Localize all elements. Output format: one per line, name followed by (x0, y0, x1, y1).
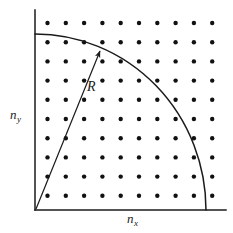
lattice-dot (82, 136, 86, 140)
lattice-dot (45, 59, 49, 63)
lattice-dot (45, 98, 49, 102)
lattice-dot (210, 174, 214, 178)
lattice-dot (173, 117, 177, 121)
lattice-dot (210, 21, 214, 25)
lattice-dot (100, 117, 104, 121)
lattice-dot (82, 194, 86, 198)
lattice-dot (64, 40, 68, 44)
lattice-dot (82, 174, 86, 178)
lattice-dot (137, 136, 141, 140)
lattice-dot (173, 194, 177, 198)
lattice-dot (82, 98, 86, 102)
lattice-dot (155, 98, 159, 102)
lattice-dot (119, 78, 123, 82)
lattice-quarter-circle-figure (0, 0, 233, 233)
lattice-dot (64, 194, 68, 198)
y-axis-label: ny (10, 108, 21, 124)
lattice-dot (119, 194, 123, 198)
lattice-dot (100, 136, 104, 140)
lattice-dot-grid (45, 21, 214, 198)
lattice-dot (119, 136, 123, 140)
lattice-dot (64, 174, 68, 178)
lattice-dot (119, 40, 123, 44)
lattice-dot (100, 40, 104, 44)
lattice-dot (155, 59, 159, 63)
lattice-dot (210, 59, 214, 63)
lattice-dot (137, 40, 141, 44)
lattice-dot (173, 40, 177, 44)
lattice-dot (210, 78, 214, 82)
lattice-dot (155, 78, 159, 82)
axis-group (35, 10, 226, 210)
x-axis-label-base: n (127, 211, 134, 226)
lattice-dot (119, 117, 123, 121)
lattice-dot (45, 40, 49, 44)
lattice-dot (173, 59, 177, 63)
lattice-dot (64, 21, 68, 25)
lattice-dot (82, 117, 86, 121)
lattice-dot (119, 174, 123, 178)
lattice-dot (100, 174, 104, 178)
lattice-dot (192, 78, 196, 82)
lattice-dot (45, 78, 49, 82)
lattice-dot (100, 194, 104, 198)
lattice-dot (192, 174, 196, 178)
lattice-dot (137, 98, 141, 102)
lattice-dot (137, 78, 141, 82)
lattice-dot (210, 155, 214, 159)
figure-container: ny nx R (0, 0, 233, 233)
lattice-dot (137, 21, 141, 25)
lattice-dot (137, 174, 141, 178)
lattice-dot (82, 21, 86, 25)
lattice-dot (119, 155, 123, 159)
lattice-dot (119, 21, 123, 25)
lattice-dot (173, 78, 177, 82)
lattice-dot (45, 155, 49, 159)
lattice-dot (64, 155, 68, 159)
lattice-dot (192, 117, 196, 121)
lattice-dot (192, 59, 196, 63)
lattice-dot (137, 59, 141, 63)
y-axis-label-subscript: y (17, 114, 22, 124)
y-axis-label-base: n (10, 107, 17, 122)
lattice-dot (192, 40, 196, 44)
lattice-dot (137, 155, 141, 159)
lattice-dot (192, 194, 196, 198)
lattice-dot (82, 78, 86, 82)
lattice-dot (64, 78, 68, 82)
lattice-dot (64, 117, 68, 121)
x-axis-label: nx (127, 212, 138, 228)
lattice-dot (137, 117, 141, 121)
lattice-dot (155, 174, 159, 178)
lattice-dot (155, 136, 159, 140)
lattice-dot (173, 98, 177, 102)
radius-label: R (87, 80, 96, 94)
lattice-dot (192, 155, 196, 159)
lattice-dot (173, 174, 177, 178)
lattice-dot (173, 155, 177, 159)
lattice-dot (45, 117, 49, 121)
lattice-dot (45, 136, 49, 140)
lattice-dot (119, 59, 123, 63)
lattice-dot (155, 40, 159, 44)
lattice-dot (45, 194, 49, 198)
lattice-dot (192, 21, 196, 25)
lattice-dot (64, 98, 68, 102)
lattice-dot (210, 98, 214, 102)
lattice-dot (155, 21, 159, 25)
lattice-dot (100, 21, 104, 25)
lattice-dot (155, 155, 159, 159)
lattice-dot (210, 136, 214, 140)
lattice-dot (173, 21, 177, 25)
lattice-dot (173, 136, 177, 140)
lattice-dot (137, 194, 141, 198)
lattice-dot (82, 59, 86, 63)
lattice-dot (155, 194, 159, 198)
lattice-dot (82, 155, 86, 159)
lattice-dot (119, 98, 123, 102)
x-axis-label-subscript: x (134, 218, 139, 228)
lattice-dot (100, 155, 104, 159)
lattice-dot (210, 194, 214, 198)
lattice-dot (210, 117, 214, 121)
lattice-dot (192, 98, 196, 102)
